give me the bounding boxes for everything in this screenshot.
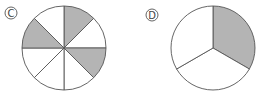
fraction-circles-diagram: C D bbox=[0, 0, 256, 102]
option-c-label: C bbox=[5, 7, 17, 19]
circle-d bbox=[171, 6, 255, 90]
svg-text:C: C bbox=[8, 8, 15, 19]
svg-text:D: D bbox=[148, 10, 156, 21]
option-d-label: D bbox=[146, 9, 158, 21]
circle-c bbox=[22, 6, 106, 90]
